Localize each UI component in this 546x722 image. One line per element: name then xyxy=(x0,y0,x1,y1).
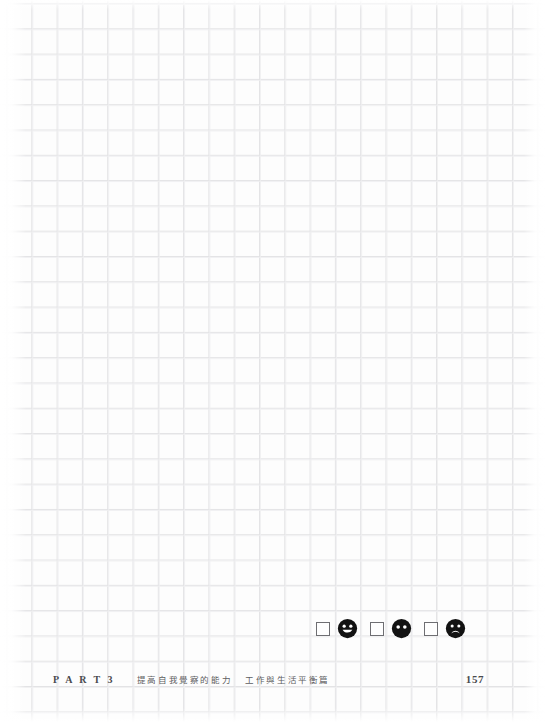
mood-option-neutral[interactable] xyxy=(370,618,412,639)
notebook-page: P A R T 3 提高自我覺察的能力工作與生活平衡篇 157 xyxy=(0,0,546,722)
graph-paper-grid-overlay xyxy=(0,0,546,722)
page-footer: P A R T 3 提高自我覺察的能力工作與生活平衡篇 157 xyxy=(0,668,546,690)
mood-option-happy[interactable] xyxy=(316,618,358,639)
sad-face-icon xyxy=(445,618,466,639)
page-edge-bottom-shadow xyxy=(0,708,546,722)
mood-rating-row xyxy=(316,618,466,639)
page-edge-top-shadow xyxy=(0,0,546,10)
neutral-face-icon xyxy=(391,618,412,639)
checkbox-happy[interactable] xyxy=(316,622,330,636)
mood-option-sad[interactable] xyxy=(424,618,466,639)
checkbox-neutral[interactable] xyxy=(370,622,384,636)
page-edge-left-shadow xyxy=(0,0,26,722)
page-number: 157 xyxy=(466,673,484,685)
graph-paper-grid xyxy=(0,0,546,722)
happy-face-icon xyxy=(337,618,358,639)
checkbox-sad[interactable] xyxy=(424,622,438,636)
page-edge-right-shadow xyxy=(524,0,546,722)
footer-page-number-wrap: 157 xyxy=(0,673,546,685)
